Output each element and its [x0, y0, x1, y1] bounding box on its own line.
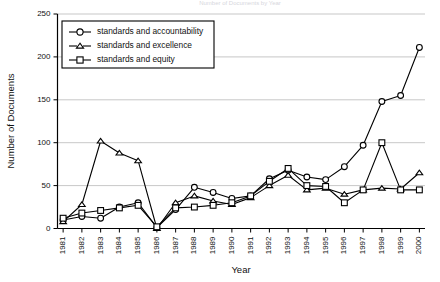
- x-tick-label: 1998: [377, 236, 386, 254]
- square-marker: [154, 224, 160, 230]
- square-marker: [191, 204, 197, 210]
- circle-marker: [304, 174, 310, 180]
- square-marker: [398, 187, 404, 193]
- square-marker: [416, 187, 422, 193]
- square-marker: [77, 57, 83, 63]
- legend-label: standards and accountability: [97, 26, 204, 36]
- triangle-marker: [191, 193, 198, 198]
- circle-marker: [210, 190, 216, 196]
- x-tick-label: 1992: [264, 236, 273, 254]
- x-tick-label: 1983: [96, 236, 105, 254]
- square-marker: [116, 205, 122, 211]
- legend-label: standards and equity: [97, 54, 176, 64]
- square-marker: [98, 208, 104, 214]
- series-triangle: [60, 138, 423, 230]
- x-tick-label: 1991: [246, 236, 255, 254]
- y-axis-label: Number of Documents: [5, 73, 16, 168]
- square-marker: [285, 166, 291, 172]
- series-layer: [60, 45, 423, 231]
- x-tick-label: 1982: [77, 236, 86, 254]
- circle-marker: [341, 164, 347, 170]
- square-marker: [360, 187, 366, 193]
- x-tick-label: 1987: [171, 236, 180, 254]
- triangle-marker: [79, 202, 86, 207]
- x-tick-label: 1988: [189, 236, 198, 254]
- x-tick-label: 1986: [152, 236, 161, 254]
- chart-title-group: Number of Documents by Year: [199, 0, 281, 6]
- square-marker: [210, 202, 216, 208]
- y-tick-label: 0: [46, 224, 51, 233]
- chart-legend: standards and accountabilitystandards an…: [62, 21, 214, 68]
- circle-marker: [323, 177, 329, 183]
- x-tick-label: 1997: [358, 236, 367, 254]
- square-marker: [341, 200, 347, 206]
- square-marker: [173, 205, 179, 211]
- square-marker: [266, 178, 272, 184]
- circle-marker: [379, 99, 385, 105]
- triangle-marker: [135, 158, 142, 163]
- square-marker: [379, 140, 385, 146]
- y-tick-label: 100: [37, 138, 51, 147]
- circle-marker: [191, 184, 197, 190]
- x-tick-label: 1985: [133, 236, 142, 254]
- triangle-marker: [285, 173, 292, 178]
- x-tick-label: 2000: [414, 236, 423, 254]
- y-axis-ticks: 050100150200250: [37, 9, 57, 233]
- square-marker: [229, 200, 235, 206]
- x-axis-label: Year: [231, 264, 250, 275]
- square-marker: [248, 193, 254, 199]
- square-marker: [323, 184, 329, 190]
- triangle-marker: [379, 186, 386, 191]
- x-tick-label: 1990: [227, 236, 236, 254]
- y-tick-label: 50: [42, 181, 51, 190]
- x-tick-label: 1995: [321, 236, 330, 254]
- x-tick-label: 1993: [283, 236, 292, 254]
- square-marker: [135, 202, 141, 208]
- triangle-marker: [97, 138, 104, 143]
- legend-label: standards and excellence: [97, 40, 192, 50]
- circle-marker: [398, 93, 404, 99]
- y-tick-label: 200: [37, 52, 51, 61]
- triangle-marker: [416, 170, 423, 175]
- series-square: [60, 140, 422, 230]
- x-tick-label: 1994: [302, 236, 311, 254]
- square-marker: [60, 215, 66, 221]
- x-tick-label: 1999: [396, 236, 405, 254]
- circle-marker: [360, 142, 366, 148]
- chart-title: Number of Documents by Year: [199, 0, 281, 6]
- circle-marker: [416, 45, 422, 51]
- series-circle: [60, 45, 422, 231]
- x-tick-label: 1996: [339, 236, 348, 254]
- circle-marker: [77, 29, 83, 35]
- chart-container: Number of Documents by Year 050100150200…: [0, 0, 440, 282]
- square-marker: [304, 183, 310, 189]
- x-tick-label: 1984: [114, 236, 123, 254]
- y-tick-label: 250: [37, 9, 51, 18]
- triangle-marker: [172, 200, 179, 205]
- circle-marker: [98, 215, 104, 221]
- x-tick-label: 1981: [58, 236, 67, 254]
- x-axis-ticks: 1981198219831984198519861987198819891990…: [58, 229, 423, 255]
- square-marker: [79, 210, 85, 216]
- triangle-marker: [341, 192, 348, 197]
- x-tick-label: 1989: [208, 236, 217, 254]
- y-tick-label: 150: [37, 95, 51, 104]
- line-chart: Number of Documents by Year 050100150200…: [0, 0, 440, 282]
